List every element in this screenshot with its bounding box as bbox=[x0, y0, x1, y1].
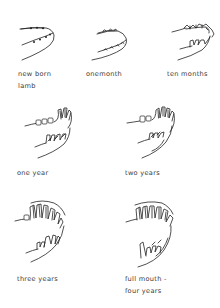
label-four-years: full mouth - four years bbox=[125, 273, 167, 297]
four-years-jaw-icon bbox=[0, 0, 220, 308]
label-four-years-line1: full mouth - bbox=[125, 273, 167, 285]
label-four-years-line2: four years bbox=[125, 285, 167, 297]
